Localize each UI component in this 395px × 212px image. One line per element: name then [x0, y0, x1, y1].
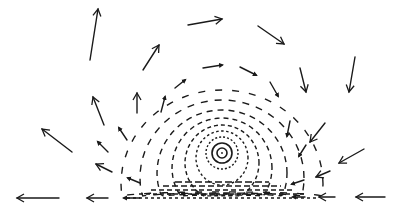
velocity-arrow — [240, 67, 256, 75]
velocity-arrow — [258, 26, 284, 44]
velocity-arrow — [300, 68, 306, 92]
velocity-arrow — [119, 128, 127, 140]
velocity-arrow — [349, 57, 355, 92]
velocity-arrow — [299, 145, 306, 156]
velocity-arrow — [98, 142, 108, 152]
velocity-arrow — [42, 129, 72, 152]
velocity-arrow — [270, 82, 278, 96]
vortex-center-point — [221, 152, 223, 154]
velocity-arrow — [292, 180, 304, 184]
vortex-vector-field-diagram — [0, 0, 395, 212]
vector-field-svg — [0, 0, 395, 212]
velocity-arrow — [203, 65, 222, 68]
velocity-arrow — [90, 9, 98, 60]
streamline — [172, 118, 272, 196]
velocity-arrow — [316, 171, 330, 177]
velocity-arrow — [310, 123, 325, 142]
velocity-arrow — [339, 149, 364, 163]
velocity-arrow — [93, 97, 104, 125]
velocity-arrow — [143, 45, 159, 70]
velocity-arrow — [128, 178, 140, 183]
velocity-arrows-large — [17, 9, 385, 198]
velocity-arrow — [188, 19, 222, 25]
velocity-arrow — [175, 80, 185, 88]
velocity-arrow — [161, 97, 165, 112]
velocity-arrow — [96, 164, 112, 172]
